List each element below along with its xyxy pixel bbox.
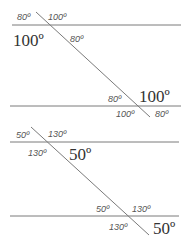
angle-label-large: 100º [139, 87, 170, 106]
angle-label: 130º [28, 148, 47, 158]
angle-label: 130º [132, 204, 151, 214]
angle-label-large: 50º [153, 219, 175, 238]
angle-label-large: 50º [69, 145, 91, 164]
angle-label: 80º [70, 34, 84, 44]
angle-label: 80º [17, 12, 31, 22]
angle-label: 130º [109, 222, 128, 232]
angles-diagram-canvas: 80º 100º 100º 80º 80º 100º 100º 80º 50º … [0, 0, 187, 245]
diagram-2: 50º 130º 130º 50º 50º 130º 130º 50º [10, 127, 179, 238]
transversal-line [31, 127, 149, 235]
angle-label: 80º [155, 109, 169, 119]
angle-label: 100º [116, 109, 135, 119]
angle-label: 100º [48, 12, 67, 22]
transversal-line [36, 12, 150, 117]
angle-label: 50º [96, 204, 110, 214]
angle-label: 50º [16, 130, 30, 140]
diagram-1: 80º 100º 100º 80º 80º 100º 100º 80º [10, 12, 181, 119]
angle-label-large: 100º [13, 31, 44, 50]
angle-label: 130º [48, 129, 67, 139]
angle-label: 80º [108, 94, 122, 104]
